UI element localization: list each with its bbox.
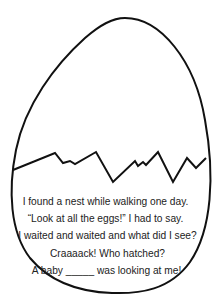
poem-text: I found a nest while walking one day. “L… <box>0 193 223 279</box>
poem-line-1: I found a nest while walking one day. <box>0 193 223 210</box>
poem-line-5-fill-in-blank: A baby _____ was looking at me! <box>0 262 223 279</box>
egg-crack-line <box>13 152 206 182</box>
poem-line-2: “Look at all the eggs!” I had to say. <box>0 210 223 227</box>
poem-line-4: Craaaack! Who hatched? <box>0 245 223 262</box>
worksheet-page: I found a nest while walking one day. “L… <box>0 0 223 298</box>
poem-line-3: I waited and waited and what did I see? <box>0 227 223 244</box>
